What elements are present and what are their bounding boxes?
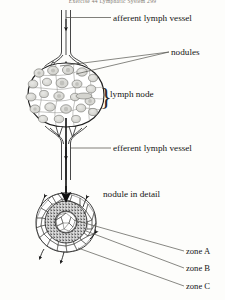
leader-zone-b bbox=[86, 231, 184, 268]
label-zone-b: zone B bbox=[186, 264, 210, 273]
label-nodule-in-detail: nodule in detail bbox=[103, 190, 160, 199]
label-zone-c: zone C bbox=[186, 282, 210, 291]
leader-nodules-2 bbox=[76, 52, 169, 74]
label-efferent-lymph-vessel: efferent lymph vessel bbox=[113, 144, 192, 153]
label-nodules: nodules bbox=[171, 48, 200, 57]
label-lymph-node: lymph node bbox=[110, 90, 154, 99]
label-zone-a: zone A bbox=[186, 247, 210, 256]
medullary-cord bbox=[76, 93, 92, 99]
afferent-lymph-vessel bbox=[45, 10, 88, 67]
leader-zone-c bbox=[78, 248, 184, 286]
running-head: Exercise 44 Lymphatic System 299 bbox=[0, 0, 225, 5]
label-afferent-lymph-vessel: afferent lymph vessel bbox=[113, 14, 192, 23]
